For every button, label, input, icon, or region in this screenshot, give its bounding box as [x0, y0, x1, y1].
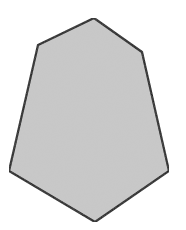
- figure-canvas: [0, 0, 186, 230]
- hexagon-figure: [0, 0, 186, 230]
- hexagon-shape: [9, 18, 169, 222]
